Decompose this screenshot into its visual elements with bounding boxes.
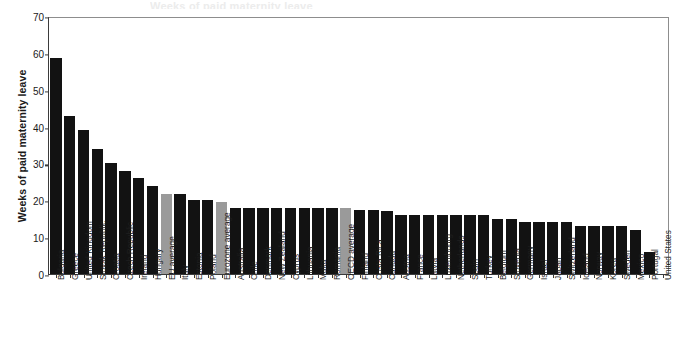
- x-tick-label: Bulgaria: [58, 250, 66, 280]
- x-tick-label: Slovenia: [514, 248, 522, 280]
- y-tick-label: 70: [0, 13, 49, 23]
- x-tick-label: Cyprus: [293, 254, 301, 280]
- y-tick-mark: [45, 239, 49, 240]
- x-tick-label: Netherlands: [458, 235, 466, 280]
- x-tick-label: Spain: [472, 259, 480, 280]
- x-tick-label: Ireland: [141, 255, 149, 280]
- x-tick-label: Latvia: [431, 258, 439, 280]
- x-tick-label: Estonia: [196, 252, 204, 280]
- x-tick-label: Turkey: [486, 255, 494, 280]
- chart-title-clipped: Weeks of paid maternity leave: [150, 0, 480, 9]
- x-tick-label: Italy: [182, 265, 190, 280]
- y-tick-label: 0: [0, 271, 49, 281]
- x-tick-label: Sweden: [624, 250, 632, 280]
- x-tick-label: Chile: [251, 261, 259, 280]
- x-tick-label: Eurozone average: [224, 212, 232, 280]
- x-tick-label: Austria: [403, 254, 411, 280]
- x-tick-label: Hungary: [155, 249, 163, 280]
- x-tick-label: Slovak Republic: [100, 221, 108, 280]
- x-tick-label: Croatia: [113, 253, 121, 280]
- x-tick-label: Canada: [389, 251, 397, 280]
- x-tick-label: Korea: [610, 258, 618, 280]
- x-tick-label: Iceland: [583, 253, 591, 280]
- x-tick-label: United Kingdom: [86, 221, 94, 280]
- x-tick-label: Greece: [72, 253, 80, 280]
- x-tick-label: Belgium: [500, 250, 508, 280]
- x-axis-labels: BulgariaGreeceUnited KingdomSlovak Repub…: [48, 280, 669, 358]
- x-tick-label: Switzerland: [569, 237, 577, 280]
- maternity-leave-bar-chart: Weeks of paid maternity leave Weeks of p…: [0, 0, 677, 358]
- y-tick-mark: [45, 91, 49, 92]
- y-tick-label: 10: [0, 234, 49, 244]
- x-tick-label: OECD average: [348, 224, 356, 280]
- x-tick-label: Luxembourg: [445, 234, 453, 280]
- x-tick-label: Israel: [541, 260, 549, 280]
- x-tick-label: United States: [665, 230, 673, 280]
- x-tick-label: Lithuania: [307, 246, 315, 280]
- x-tick-label: New Zealand: [279, 231, 287, 280]
- y-tick-label: 60: [0, 50, 49, 60]
- x-tick-label: Germany: [527, 246, 535, 280]
- x-tick-label: Romania: [334, 247, 342, 280]
- y-tick-mark: [45, 128, 49, 129]
- bar-series: [49, 18, 668, 274]
- x-tick-label: Malta: [320, 260, 328, 280]
- x-tick-label: Poland: [210, 254, 218, 280]
- y-tick-label: 40: [0, 124, 49, 134]
- y-tick-mark: [45, 165, 49, 166]
- x-tick-label: Australia: [238, 248, 246, 280]
- x-tick-label: Finland: [362, 253, 370, 280]
- x-tick-label: Japan: [555, 257, 563, 280]
- x-tick-label: Czech Republic: [127, 222, 135, 280]
- y-tick-label: 20: [0, 197, 49, 207]
- y-tick-mark: [45, 275, 49, 276]
- y-tick-label: 30: [0, 160, 49, 170]
- x-tick-label: EU average: [169, 236, 177, 280]
- y-tick-mark: [45, 202, 49, 203]
- x-tick-label: Costa Rica: [376, 239, 384, 280]
- y-tick-mark: [45, 17, 49, 18]
- y-tick-label: 50: [0, 87, 49, 97]
- y-tick-mark: [45, 54, 49, 55]
- x-tick-label: Portugal: [652, 249, 660, 280]
- x-tick-label: Norway: [596, 252, 604, 280]
- x-tick-label: Mexico: [638, 254, 646, 280]
- x-tick-label: Denmark: [265, 246, 273, 280]
- y-axis-title: Weeks of paid maternity leave: [16, 46, 28, 246]
- bar: [50, 58, 61, 274]
- x-tick-label: France: [417, 254, 425, 280]
